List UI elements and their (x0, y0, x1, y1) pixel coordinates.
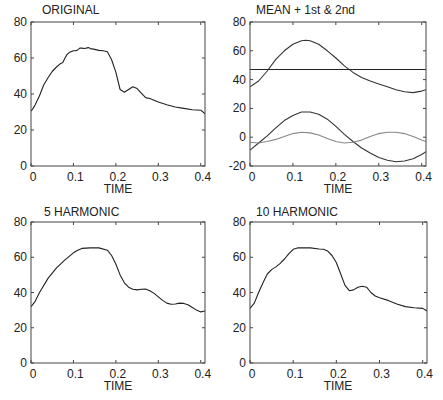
panel-5-harmonic: 5 HARMONIC TIME 00.10.20.30.4020406080 (14, 205, 212, 393)
x-tick-label: 0.1 (67, 170, 84, 184)
x-tick-label: 0.3 (372, 170, 389, 184)
y-tick-label: 40 (233, 73, 247, 87)
x-tick-label: 0.3 (152, 170, 169, 184)
y-tick-label: 60 (233, 44, 247, 58)
y-tick-label: 80 (233, 215, 247, 229)
y-tick-label: -20 (229, 159, 247, 173)
x-tick-label: 0.1 (287, 170, 304, 184)
panel-original: ORIGINAL TIME 00.10.20.30.4020406080 (14, 3, 212, 196)
x-tick-label: 0.2 (330, 170, 347, 184)
x-tick-label: 0 (249, 367, 256, 381)
panel-title: ORIGINAL (42, 3, 100, 17)
y-tick-label: 20 (14, 321, 28, 335)
axes-box (250, 222, 427, 363)
y-tick-label: 20 (233, 101, 247, 115)
y-tick-label: 80 (14, 215, 28, 229)
y-tick-label: 0 (20, 159, 27, 173)
x-tick-label: 0.4 (416, 367, 433, 381)
x-tick-label: 0 (249, 170, 256, 184)
series-line (250, 132, 426, 143)
y-tick-label: 40 (14, 87, 28, 101)
y-tick-label: 20 (14, 123, 28, 137)
x-axis-label: TIME (104, 182, 133, 196)
x-tick-label: 0.3 (152, 367, 169, 381)
axes-box (250, 22, 426, 166)
series-line (250, 112, 426, 162)
y-tick-label: 40 (233, 286, 247, 300)
panel-title: 5 HARMONIC (44, 205, 120, 219)
axes-box (31, 22, 205, 166)
panel-title: MEAN + 1st & 2nd (256, 3, 355, 17)
y-tick-label: 0 (20, 356, 27, 370)
x-tick-label: 0 (30, 367, 37, 381)
y-tick-label: 40 (14, 286, 28, 300)
x-tick-label: 0.2 (110, 367, 127, 381)
y-tick-label: 60 (14, 250, 28, 264)
figure-canvas: ORIGINAL TIME 00.10.20.30.4020406080 MEA… (0, 0, 443, 400)
y-tick-label: 20 (233, 321, 247, 335)
y-tick-label: 60 (233, 250, 247, 264)
y-tick-label: 80 (14, 15, 28, 29)
series-line (31, 48, 205, 114)
x-axis-label: TIME (104, 379, 133, 393)
panel-10-harmonic: 10 HARMONIC TIME 00.10.20.30.4020406080 (233, 205, 434, 393)
x-tick-label: 0.2 (110, 170, 127, 184)
series-line (250, 40, 426, 92)
x-tick-label: 0.4 (194, 367, 211, 381)
x-tick-label: 0 (30, 170, 37, 184)
y-tick-label: 80 (233, 15, 247, 29)
x-tick-label: 0.1 (287, 367, 304, 381)
panel-mean-1st-2nd: MEAN + 1st & 2nd TIME 00.10.20.30.4-2002… (229, 3, 433, 196)
x-tick-label: 0.4 (415, 170, 432, 184)
panel-title: 10 HARMONIC (256, 205, 338, 219)
x-axis-label: TIME (324, 379, 353, 393)
x-axis-label: TIME (324, 182, 353, 196)
y-tick-label: 60 (14, 51, 28, 65)
x-tick-label: 0.4 (194, 170, 211, 184)
y-tick-label: 0 (239, 356, 246, 370)
axes-box (31, 222, 205, 363)
x-tick-label: 0.1 (67, 367, 84, 381)
y-tick-label: 0 (239, 130, 246, 144)
x-tick-label: 0.3 (373, 367, 390, 381)
series-line (31, 248, 205, 312)
series-line (250, 248, 427, 311)
x-tick-label: 0.2 (330, 367, 347, 381)
